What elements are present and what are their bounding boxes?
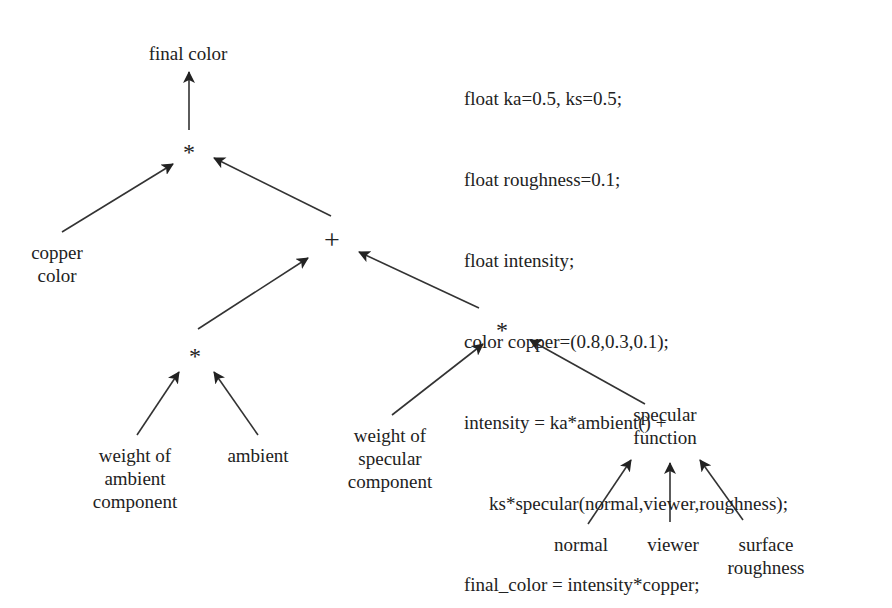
node-multiply-top: * <box>183 140 195 164</box>
node-weight-specular-line3: component <box>348 470 432 493</box>
code-line-6: ks*specular(normal,viewer,roughness); <box>464 490 788 517</box>
code-line-4: color copper=(0.8,0.3,0.1); <box>464 328 788 355</box>
node-plus: + <box>324 226 340 254</box>
node-weight-specular: weight of specular component <box>348 424 432 493</box>
node-copper-color-line1: copper <box>31 241 83 264</box>
node-weight-specular-line2: specular <box>348 447 432 470</box>
code-line-5: intensity = ka*ambient() + <box>464 409 788 436</box>
shader-code-block: float ka=0.5, ks=0.5; float roughness=0.… <box>464 31 788 608</box>
code-line-7: final_color = intensity*copper; <box>464 571 788 598</box>
node-weight-ambient: weight of ambient component <box>93 444 177 513</box>
node-weight-ambient-line2: ambient <box>93 467 177 490</box>
node-ambient-text: ambient <box>227 445 288 466</box>
node-final-color-text: final color <box>149 43 228 64</box>
node-multiply-ambient: * <box>189 344 201 368</box>
edge-weight-ambient-to-mult <box>137 372 179 435</box>
expression-tree-diagram: final color * copper color + * * weight … <box>0 0 892 608</box>
node-weight-ambient-line3: component <box>93 490 177 513</box>
edge-plus-to-mult <box>214 158 331 216</box>
node-weight-specular-line1: weight of <box>348 424 432 447</box>
node-copper-color-line2: color <box>31 264 83 287</box>
code-line-3: float intensity; <box>464 247 788 274</box>
node-final-color: final color <box>149 42 228 65</box>
edge-mult-specular-to-plus <box>359 252 479 308</box>
node-weight-ambient-line1: weight of <box>93 444 177 467</box>
node-ambient: ambient <box>227 444 288 467</box>
edge-ambient-to-mult <box>214 372 258 435</box>
edge-copper-to-mult <box>62 164 173 232</box>
edge-mult-ambient-to-plus <box>198 258 308 329</box>
node-copper-color: copper color <box>31 241 83 287</box>
code-line-2: float roughness=0.1; <box>464 166 788 193</box>
code-line-1: float ka=0.5, ks=0.5; <box>464 85 788 112</box>
